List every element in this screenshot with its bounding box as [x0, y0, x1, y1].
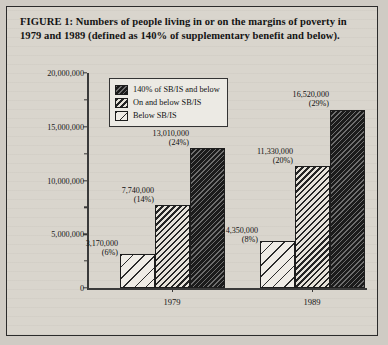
- x-category-1989: 1989: [303, 297, 320, 307]
- y-tick-10000000: [83, 180, 87, 181]
- bar-label-1979-140pct: 13,010,000 (24%): [122, 129, 189, 148]
- y-tick-label-15000000: 15,000,000: [47, 122, 84, 131]
- figure-caption: FIGURE 1: Numbers of people living in or…: [20, 15, 360, 43]
- legend-label-below: Below SB/IS: [133, 111, 177, 120]
- bar-1979-below-sbis[interactable]: [120, 254, 155, 288]
- x-category-1979: 1979: [163, 297, 180, 307]
- x-tick-1979: [172, 288, 173, 292]
- bar-1979-140pct-sbis-and-below[interactable]: [190, 148, 225, 288]
- legend-label-on-and-below: On and below SB/IS: [133, 98, 201, 107]
- bar-percent-1989-140pct: (29%): [309, 99, 329, 108]
- bar-1989-below-sbis[interactable]: [260, 241, 295, 288]
- y-tick-15000000: [83, 126, 87, 127]
- y-tick-label-5000000: 5,000,000: [51, 230, 84, 239]
- bar-1989-on-and-below-sbis[interactable]: [295, 166, 330, 288]
- bar-1989-140pct-sbis-and-below[interactable]: [330, 110, 365, 288]
- legend-label-140pct: 140% of SB/IS and below: [133, 85, 220, 94]
- bar-value-1989-140pct: 16,520,000: [293, 90, 329, 99]
- bar-value-1989-on-and-below-sbis: 11,330,000: [257, 147, 293, 156]
- bar-chart: 20,000,000 15,000,000 10,000,000 5,000,0…: [23, 73, 367, 321]
- y-tick-7500000: [84, 207, 87, 208]
- legend-swatch-on-and-below-icon: [115, 98, 128, 108]
- chart-legend: 140% of SB/IS and below On and below SB/…: [109, 78, 228, 127]
- figure-frame: FIGURE 1: Numbers of people living in or…: [6, 6, 378, 336]
- legend-item-140pct[interactable]: 140% of SB/IS and below: [115, 83, 220, 96]
- bar-label-1989-below-sbis: 4,350,000 (8%): [194, 226, 258, 245]
- bar-percent-1979-140pct: (24%): [169, 138, 189, 147]
- legend-swatch-below-icon: [115, 111, 128, 121]
- bar-label-1979-on-and-below-sbis: 7,740,000 (14%): [88, 186, 154, 205]
- bar-label-1979-below-sbis: 3,170,000 (6%): [52, 239, 118, 258]
- bar-value-1979-on-and-below-sbis: 7,740,000: [122, 186, 154, 195]
- y-tick-20000000: [83, 72, 87, 73]
- bar-value-1989-below-sbis: 4,350,000: [226, 226, 258, 235]
- y-tick-2500000: [84, 260, 87, 261]
- bar-label-1989-on-and-below-sbis: 11,330,000 (20%): [225, 147, 293, 166]
- bar-percent-1979-on-and-below-sbis: (14%): [134, 195, 154, 204]
- y-tick-label-20000000: 20,000,000: [47, 69, 84, 78]
- legend-item-on-and-below[interactable]: On and below SB/IS: [115, 96, 220, 109]
- bar-percent-1989-below-sbis: (8%): [242, 235, 258, 244]
- y-tick-5000000: [83, 234, 87, 235]
- x-tick-1989: [312, 288, 313, 292]
- x-axis-line: [87, 288, 367, 290]
- bar-value-1979-below-sbis: 3,170,000: [86, 239, 118, 248]
- legend-swatch-140pct-icon: [115, 85, 128, 95]
- bar-1979-on-and-below-sbis[interactable]: [155, 205, 190, 288]
- bar-value-1979-140pct: 13,010,000: [153, 129, 189, 138]
- y-tick-17500000: [84, 99, 87, 100]
- y-tick-12500000: [84, 153, 87, 154]
- bar-percent-1979-below-sbis: (6%): [102, 248, 118, 257]
- bar-label-1989-140pct: 16,520,000 (29%): [261, 90, 329, 109]
- legend-item-below[interactable]: Below SB/IS: [115, 109, 220, 122]
- y-tick-label-10000000: 10,000,000: [47, 176, 84, 185]
- bar-percent-1989-on-and-below-sbis: (20%): [273, 156, 293, 165]
